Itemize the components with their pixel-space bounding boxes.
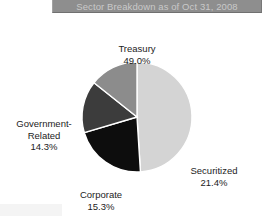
pie-label-government-related-name-line2: Related	[2, 130, 86, 142]
pie-label-treasury-value: 49.0%	[101, 55, 173, 67]
pie-label-government-related-name-line1: Government-	[2, 118, 86, 130]
pie-label-securitized: Securitized 21.4%	[181, 165, 247, 188]
pie-slice-group	[82, 62, 192, 172]
page-title: Sector Breakdown as of Oct 31, 2008	[53, 0, 261, 13]
pie-label-corporate: Corporate 15.3%	[68, 189, 134, 212]
pie-label-corporate-value: 15.3%	[68, 201, 134, 213]
pie-label-corporate-name: Corporate	[68, 189, 134, 201]
pie-slice-treasury	[137, 62, 192, 172]
pie-label-treasury: Treasury 49.0%	[101, 43, 173, 66]
pie-label-securitized-value: 21.4%	[181, 177, 247, 189]
pie-label-government-related: Government- Related 14.3%	[2, 118, 86, 153]
pie-label-securitized-name: Securitized	[181, 165, 247, 177]
pie-chart: Treasury 49.0% Securitized 21.4% Corpora…	[0, 13, 267, 216]
chart-page: Sector Breakdown as of Oct 31, 2008 Trea…	[0, 0, 267, 216]
chart-title-bar: Sector Breakdown as of Oct 31, 2008	[52, 0, 262, 13]
pie-label-treasury-name: Treasury	[101, 43, 173, 55]
pie-label-government-related-value: 14.3%	[2, 141, 86, 153]
